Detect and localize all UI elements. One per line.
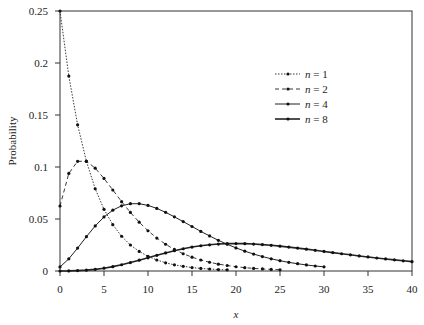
x-tick-label: 15 <box>187 283 199 295</box>
y-axis-label: Probability <box>6 116 18 165</box>
x-tick-label: 0 <box>57 283 63 295</box>
x-axis-label: x <box>233 308 239 320</box>
y-tick-label: 0.15 <box>29 109 49 121</box>
legend-entry: n = 1 <box>305 68 328 80</box>
y-tick-label: 0.25 <box>29 5 49 17</box>
plot-frame <box>60 11 412 271</box>
series-lines <box>58 9 413 272</box>
x-axis-ticks: 0510152025303540 <box>57 271 418 295</box>
y-tick-label: 0.1 <box>34 161 48 173</box>
x-tick-label: 30 <box>319 283 331 295</box>
legend-entry: n = 2 <box>305 83 328 95</box>
y-tick-label: 0.05 <box>29 213 49 225</box>
x-tick-label: 20 <box>231 283 243 295</box>
legend-entry: n = 8 <box>305 113 328 125</box>
x-tick-label: 25 <box>275 283 287 295</box>
legend-entry: n = 4 <box>305 98 328 110</box>
legend: n = 1n = 2n = 4n = 8 <box>275 68 328 125</box>
x-tick-label: 10 <box>143 283 155 295</box>
y-tick-label: 0.2 <box>34 57 48 69</box>
x-tick-label: 35 <box>363 283 375 295</box>
series-line <box>60 161 280 269</box>
y-axis-ticks: 00.050.10.150.20.25 <box>29 5 60 277</box>
probability-chart: 00.050.10.150.20.25 0510152025303540 n =… <box>0 0 424 325</box>
y-tick-label: 0 <box>43 265 49 277</box>
x-tick-label: 40 <box>407 283 419 295</box>
x-tick-label: 5 <box>101 283 107 295</box>
